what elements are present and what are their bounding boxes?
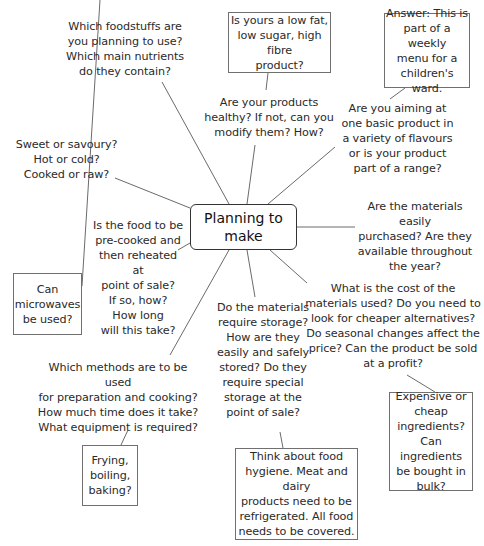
node-foodstuffs: Which foodstuffs are you planning to use…: [62, 19, 188, 79]
node-low-fat: Is yours a low fat, low sugar, high fibr…: [228, 12, 331, 73]
node-sweet: Sweet or savoury? Hot or cold? Cooked or…: [14, 137, 119, 182]
node-healthy: Are your products healthy? If not, can y…: [198, 95, 340, 140]
connector-cost: [270, 250, 307, 283]
node-hygiene: Think about food hygiene. Meat and dairy…: [235, 448, 358, 540]
connector-sweet: [115, 178, 190, 208]
node-cost: What is the cost of the materials used? …: [305, 281, 481, 371]
node-storage: Do the materials require storage? How ar…: [211, 300, 315, 420]
node-precooked: Is the food to be pre-cooked and then re…: [92, 218, 184, 338]
node-range: Are you aiming at one basic product in a…: [340, 101, 455, 176]
node-methods: Which methods are to be used for prepara…: [36, 360, 200, 435]
connector-hygiene: [280, 432, 283, 448]
connector-storage: [247, 250, 255, 297]
node-answer: Answer: This is part of a weekly menu fo…: [384, 13, 470, 88]
connector-range: [268, 147, 335, 204]
connector-low-fat: [266, 73, 268, 90]
connector-healthy: [247, 145, 255, 204]
node-frying: Frying, boiling, baking?: [82, 445, 138, 506]
central-topic: Planning to make: [190, 204, 297, 250]
node-expensive: Expensive or cheap ingredients? Can ingr…: [389, 392, 473, 491]
node-purchased: Are the materials easily purchased? Are …: [350, 199, 480, 274]
node-microwaves: Can microwaves be used?: [13, 273, 82, 335]
